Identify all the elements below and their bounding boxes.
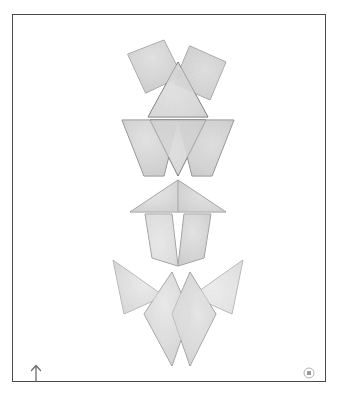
circular-logo-mark-icon xyxy=(303,367,315,379)
artwork-canvas xyxy=(0,0,341,398)
shape-layer xyxy=(113,40,243,366)
geometric-composition xyxy=(12,14,326,382)
up-arrow-icon xyxy=(27,362,45,382)
